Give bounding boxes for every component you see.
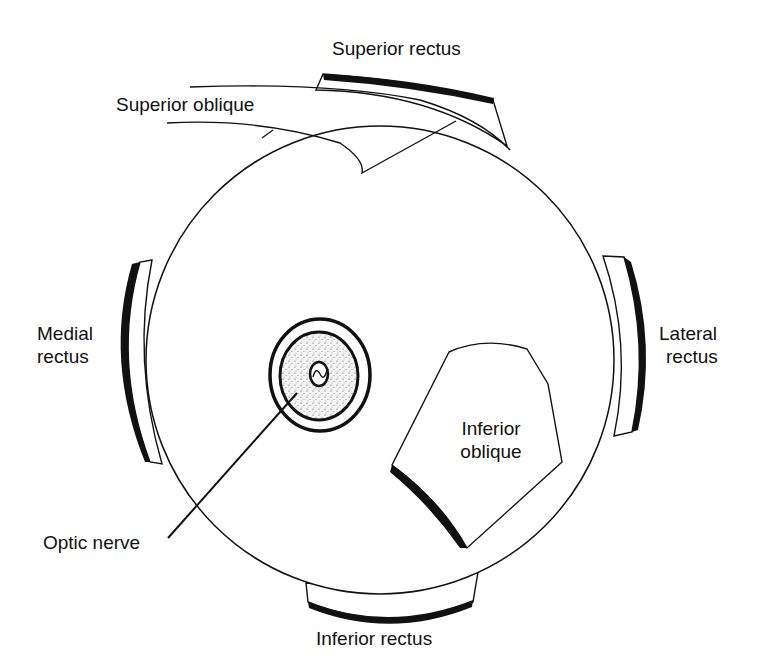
label-inferior-rectus: Inferior rectus: [316, 627, 432, 650]
label-lateral-rectus-line1: Lateral: [659, 322, 718, 345]
label-superior-rectus: Superior rectus: [332, 37, 461, 60]
label-medial-rectus: Medial rectus: [37, 322, 93, 368]
eyeball-outline: [146, 126, 614, 594]
label-medial-rectus-line2: rectus: [37, 345, 93, 368]
diagram-drawing: [0, 0, 766, 666]
label-inferior-oblique: Inferior oblique: [449, 417, 533, 463]
label-inferior-oblique-line2: oblique: [449, 440, 533, 463]
label-optic-nerve: Optic nerve: [43, 531, 140, 554]
eye-muscles-diagram: Superior rectus Superior oblique Medial …: [0, 0, 766, 666]
label-lateral-rectus-line2: rectus: [659, 345, 718, 368]
label-lateral-rectus: Lateral rectus: [659, 322, 718, 368]
label-inferior-oblique-line1: Inferior: [449, 417, 533, 440]
label-medial-rectus-line1: Medial: [37, 322, 93, 345]
label-superior-oblique: Superior oblique: [116, 93, 254, 116]
